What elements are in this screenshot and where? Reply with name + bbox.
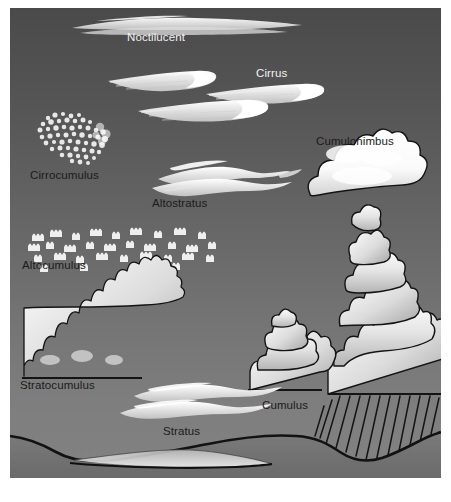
- cloud-cirrus: [108, 71, 324, 122]
- label-altostratus: Altostratus: [152, 197, 207, 209]
- ground: [10, 432, 441, 478]
- label-noctilucent: Noctilucent: [127, 31, 185, 43]
- label-stratocumulus: Stratocumulus: [20, 379, 95, 391]
- label-altocumulus: Altocumulus: [22, 259, 86, 271]
- cloud-cirrocumulus: [38, 112, 111, 165]
- cloud-types-figure: Noctilucent Cirrus Cirrocumulus Cumuloni…: [0, 0, 451, 502]
- cloud-noctilucent: [72, 16, 302, 35]
- label-cumulus: Cumulus: [262, 399, 308, 411]
- cloud-cumulus: [248, 309, 336, 390]
- label-cumulonimbus: Cumulonimbus: [316, 135, 394, 147]
- label-cirrocumulus: Cirrocumulus: [30, 169, 99, 181]
- label-cirrus: Cirrus: [256, 67, 287, 79]
- label-stratus: Stratus: [163, 425, 200, 437]
- cloud-diagram-svg: [10, 8, 441, 478]
- sky-panel: Noctilucent Cirrus Cirrocumulus Cumuloni…: [10, 8, 441, 478]
- cloud-altostratus: [152, 160, 302, 196]
- cloud-stratocumulus: [22, 256, 185, 379]
